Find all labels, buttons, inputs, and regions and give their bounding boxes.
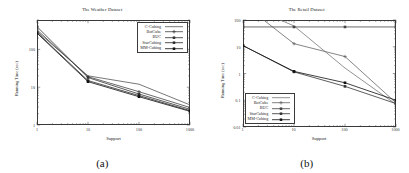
- y-tick-label: 1: [20, 123, 35, 128]
- y-tick-label: 10: [226, 44, 241, 49]
- legend-a: C-CubingBotCubeBUCStarCubingMM-Cubing: [137, 22, 188, 53]
- legend-item: MM-Cubing: [248, 117, 293, 122]
- legend-label: BUC: [153, 35, 161, 39]
- x-axis-title-a: Support: [37, 136, 190, 141]
- chart-title-a: The Weather Dataset: [0, 7, 205, 12]
- x-tick-label: 1000: [186, 127, 194, 132]
- sub-caption-b: (b): [205, 157, 409, 169]
- legend-b: C-CubingBotCubeBUCStarCubingMM-Cubing: [245, 93, 296, 124]
- legend-label: MM-Cubing: [248, 117, 269, 121]
- plot-area-b: 0.010.1110100 1101001000 Support C-Cubin…: [243, 20, 396, 127]
- y-tick-label: 1: [226, 71, 241, 76]
- x-tick-label: 1: [241, 127, 243, 132]
- chart-panel-a: The Weather Dataset 110100 1101001000 Su…: [0, 0, 205, 173]
- sub-caption-a: (a): [0, 157, 205, 169]
- y-axis-title-b: Running Time (sec): [220, 63, 225, 98]
- x-tick-label: 10: [86, 127, 90, 132]
- y-tick-label: 100: [20, 47, 35, 52]
- chart-title-b: The Retail Dataset: [205, 7, 409, 12]
- x-axis-title-b: Support: [243, 136, 396, 141]
- legend-item: MM-Cubing: [140, 46, 185, 51]
- chart-panel-b: The Retail Dataset 0.010.1110100 1101001…: [205, 0, 409, 173]
- x-tick-label: 100: [136, 127, 142, 132]
- x-tick-label: 1: [36, 127, 38, 132]
- legend-swatch: [163, 46, 185, 51]
- x-tick-label: 100: [341, 127, 347, 132]
- y-tick-label: 100: [226, 18, 241, 23]
- x-tick-label: 1000: [391, 127, 399, 132]
- figure-container: The Weather Dataset 110100 1101001000 Su…: [0, 0, 409, 173]
- legend-label: MM-Cubing: [140, 46, 161, 50]
- y-tick-label: 0.01: [226, 125, 241, 130]
- x-tick-label: 10: [291, 127, 295, 132]
- plot-area-a: 110100 1101001000 Support C-CubingBotCub…: [37, 20, 190, 125]
- legend-label: BUC: [260, 106, 268, 110]
- y-tick-label: 10: [20, 85, 35, 90]
- y-axis-title-a: Running Time (sec): [14, 61, 19, 96]
- y-tick-label: 0.1: [226, 98, 241, 103]
- legend-swatch: [270, 117, 292, 122]
